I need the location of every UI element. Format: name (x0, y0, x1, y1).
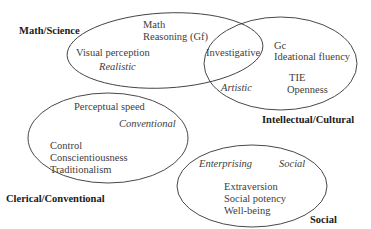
visual-perception-item: Visual perception (76, 47, 150, 59)
artistic-interest: Artistic (221, 82, 252, 94)
perceptual-speed-item: Perceptual speed (74, 101, 145, 113)
social-interest: Social (279, 158, 305, 170)
social-potency-item: Social potency (224, 193, 286, 205)
clerical-conventional-label: Clerical/Conventional (6, 193, 105, 205)
reasoning-item: Reasoning (Gf) (143, 31, 208, 43)
realistic-interest: Realistic (99, 61, 136, 73)
extraversion-item: Extraversion (224, 181, 278, 193)
tie-item: TIE (289, 72, 305, 84)
ideational-fluency-item: Ideational fluency (274, 51, 350, 63)
math-item: Math (143, 19, 165, 31)
control-item: Control (50, 140, 82, 152)
openness-item: Openness (287, 84, 328, 96)
conventional-interest: Conventional (119, 118, 176, 130)
intellectual-cultural-label: Intellectual/Cultural (262, 114, 354, 126)
intellectual-cultural-ellipse (204, 17, 357, 110)
social-label: Social (310, 214, 337, 226)
traditionalism-item: Traditionalism (50, 164, 111, 176)
math-science-label: Math/Science (19, 25, 80, 37)
well-being-item: Well-being (224, 205, 270, 217)
conscientiousness-item: Conscientiousness (50, 152, 128, 164)
investigative-interest: Investigative (206, 47, 260, 59)
enterprising-interest: Enterprising (199, 158, 252, 170)
